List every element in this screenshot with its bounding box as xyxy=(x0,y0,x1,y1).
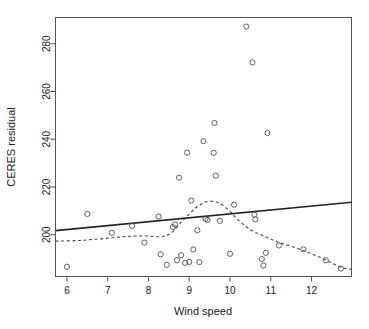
x-tick-label: 9 xyxy=(186,285,192,296)
x-tick-label: 12 xyxy=(306,285,318,296)
y-tick-label: 240 xyxy=(41,130,52,147)
y-axis-title: CERES residual xyxy=(5,107,17,186)
y-tick-label: 280 xyxy=(41,35,52,52)
x-tick-label: 11 xyxy=(266,285,277,296)
x-tick-label: 10 xyxy=(224,285,236,296)
y-tick-label: 260 xyxy=(41,83,52,100)
x-tick-label: 8 xyxy=(146,285,152,296)
chart-container: 200220240260280 6789101112 Wind speed CE… xyxy=(0,0,369,329)
y-tick-label: 220 xyxy=(41,178,52,195)
ceres-residual-scatter-plot: 200220240260280 6789101112 Wind speed CE… xyxy=(0,0,369,329)
x-tick-label: 7 xyxy=(105,285,111,296)
y-tick-label: 200 xyxy=(41,226,52,243)
x-tick-label: 6 xyxy=(64,285,70,296)
x-axis-title: Wind speed xyxy=(174,305,232,317)
